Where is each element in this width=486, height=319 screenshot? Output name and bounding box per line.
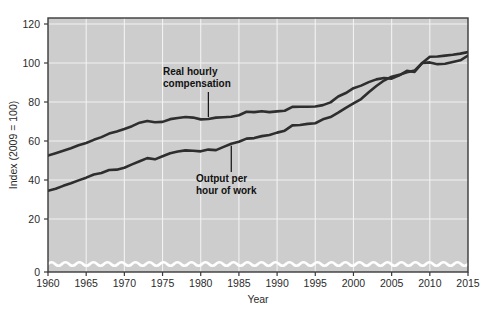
y-tick-label: 40 bbox=[28, 174, 40, 186]
x-tick-label: 1975 bbox=[151, 277, 175, 289]
y-tick-label: 60 bbox=[28, 135, 40, 147]
annotation-output-per-hour-line1: Output per bbox=[196, 173, 247, 184]
axis-break-wave bbox=[48, 262, 468, 266]
x-axis-title: Year bbox=[247, 293, 269, 305]
annotation-output-per-hour-line2: hour of work bbox=[196, 185, 257, 196]
chart-container: 020406080100120 196019651970197519801985… bbox=[0, 0, 486, 319]
x-tick-label: 1960 bbox=[36, 277, 60, 289]
y-tick-label: 120 bbox=[22, 18, 40, 30]
plot-area-background bbox=[48, 18, 468, 272]
x-tick-label: 1970 bbox=[113, 277, 137, 289]
x-tick-label: 2010 bbox=[418, 277, 442, 289]
y-tick-label: 80 bbox=[28, 96, 40, 108]
x-tick-label: 2000 bbox=[342, 277, 366, 289]
annotation-real-hourly-compensation-line2: compensation bbox=[163, 78, 231, 89]
x-tick-label: 1985 bbox=[227, 277, 251, 289]
x-tick-label: 2015 bbox=[456, 277, 480, 289]
annotation-real-hourly-compensation-line1: Real hourly bbox=[163, 66, 218, 77]
x-tick-label: 1980 bbox=[189, 277, 213, 289]
y-axis-title: Index (2009 = 100) bbox=[7, 101, 19, 189]
x-tick-label: 2005 bbox=[380, 277, 404, 289]
y-tick-label: 0 bbox=[34, 266, 40, 278]
chart-svg: 020406080100120 196019651970197519801985… bbox=[0, 0, 486, 319]
x-tick-label: 1965 bbox=[75, 277, 99, 289]
y-tick-label: 100 bbox=[22, 57, 40, 69]
y-tick-label: 20 bbox=[28, 213, 40, 225]
x-tick-label: 1990 bbox=[265, 277, 289, 289]
x-tick-label: 1995 bbox=[304, 277, 328, 289]
